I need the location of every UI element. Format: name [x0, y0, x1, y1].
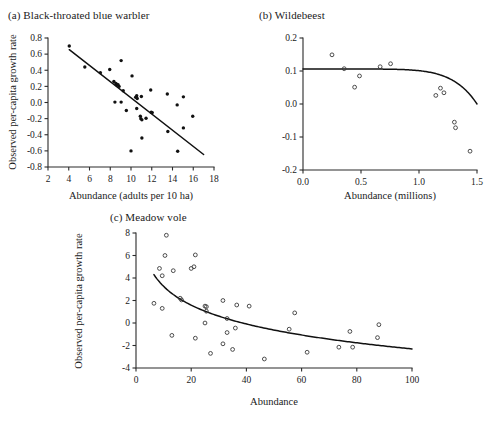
tick-label: 0.6	[30, 49, 42, 59]
tick-label: 4	[66, 174, 71, 184]
panel-c-plot: 020406080100 -4-202468 Abundance Observe…	[60, 205, 440, 424]
tick-label: 2	[125, 296, 130, 306]
panel-c-fit-curve	[154, 275, 412, 349]
data-point	[225, 331, 229, 335]
data-point	[135, 94, 138, 97]
panel-a-x-axis-label: Abundance (adults per 10 ha)	[69, 190, 194, 202]
data-point	[376, 336, 380, 340]
tick-label: -0.2	[27, 114, 42, 124]
panel-b-fit-curve	[303, 69, 477, 104]
data-point	[129, 149, 132, 152]
data-point	[163, 254, 167, 258]
tick-label: 18	[209, 174, 219, 184]
data-point	[117, 85, 120, 88]
tick-label: 60	[297, 375, 307, 385]
data-point	[171, 269, 175, 273]
data-point	[203, 321, 207, 325]
panel-a-fit-line	[69, 50, 203, 155]
tick-label: 0.5	[355, 177, 367, 187]
data-point	[348, 330, 352, 334]
tick-label: 0.1	[285, 66, 297, 76]
tick-label: 0.2	[285, 33, 297, 43]
tick-label: -0.6	[27, 146, 42, 156]
panel-c-x-axis-label: Abundance	[250, 396, 298, 407]
panel-c-title: (c) Meadow vole	[110, 211, 187, 223]
tick-label: -0.2	[282, 165, 297, 175]
tick-label: 6	[87, 174, 92, 184]
tick-label: 0.2	[30, 82, 42, 92]
tick-label: -0.1	[282, 132, 297, 142]
data-point	[377, 323, 381, 327]
panel-a-axes	[45, 38, 215, 171]
data-point	[108, 68, 111, 71]
tick-label: 0.0	[285, 99, 297, 109]
data-point	[337, 345, 341, 349]
data-point	[193, 336, 197, 340]
data-point	[434, 94, 438, 98]
data-point	[175, 103, 178, 106]
data-point	[125, 109, 128, 112]
figure-root: (a) Black-throated blue warbler 24681012…	[0, 0, 492, 424]
tick-label: 80	[352, 375, 362, 385]
data-point	[119, 59, 122, 62]
panel-a-y-tick-labels: -0.8-0.6-0.4-0.20.00.20.40.60.8	[27, 33, 42, 172]
data-point	[144, 117, 147, 120]
panel-a-x-tick-labels: 24681012141618	[46, 174, 219, 184]
data-point	[191, 115, 194, 118]
data-point	[152, 301, 156, 305]
data-point	[130, 74, 133, 77]
data-point	[160, 274, 164, 278]
panel-b-plot: 0.00.51.01.5 -0.2-0.10.00.10.2 Abundance…	[250, 0, 492, 205]
tick-label: 14	[168, 174, 178, 184]
panel-a-title: (a) Black-throated blue warbler	[8, 9, 149, 21]
data-point	[235, 303, 239, 307]
fit-curve	[303, 69, 477, 104]
data-point	[182, 126, 185, 129]
panel-c-axes	[133, 233, 413, 372]
panel-b-y-tick-labels: -0.2-0.10.00.10.2	[282, 33, 297, 175]
tick-label: -4	[122, 363, 130, 373]
data-point	[209, 351, 213, 355]
data-point	[233, 326, 237, 330]
data-point	[468, 149, 472, 153]
panel-c-x-tick-labels: 020406080100	[134, 375, 420, 385]
data-point	[140, 118, 143, 121]
data-point	[182, 95, 185, 98]
data-point	[305, 350, 309, 354]
tick-label: 100	[405, 375, 420, 385]
data-point	[442, 91, 446, 95]
data-point	[140, 95, 143, 98]
data-point	[99, 71, 102, 74]
data-point	[119, 100, 122, 103]
tick-label: 1.5	[471, 177, 483, 187]
data-point	[170, 333, 174, 337]
tick-label: 6	[125, 251, 130, 261]
panel-c-y-tick-labels: -4-202468	[122, 228, 130, 373]
tick-label: 20	[186, 375, 196, 385]
data-point	[221, 299, 225, 303]
data-point	[176, 150, 179, 153]
data-point	[358, 74, 362, 78]
data-point	[293, 311, 297, 315]
data-point	[164, 233, 168, 237]
tick-label: 8	[108, 174, 113, 184]
data-point	[136, 97, 139, 100]
data-point	[166, 130, 169, 133]
tick-label: 4	[125, 273, 130, 283]
data-point	[247, 304, 251, 308]
tick-label: 0.4	[30, 66, 42, 76]
panel-b-wildebeest: (b) Wildebeest 0.00.51.01.5 -0.2-0.10.00…	[250, 0, 492, 205]
tick-label: -2	[122, 341, 130, 351]
data-point	[149, 88, 152, 91]
data-point	[122, 89, 125, 92]
panel-a-plot: 24681012141618 -0.8-0.6-0.4-0.20.00.20.4…	[0, 0, 250, 205]
tick-label: 10	[126, 174, 136, 184]
tick-label: 0	[125, 318, 130, 328]
tick-label: 1.0	[413, 177, 425, 187]
tick-label: 16	[189, 174, 199, 184]
panel-b-x-tick-labels: 0.00.51.01.5	[297, 177, 483, 187]
data-point	[113, 100, 116, 103]
data-point	[351, 345, 355, 349]
data-point	[193, 253, 197, 257]
tick-label: 0.0	[297, 177, 309, 187]
